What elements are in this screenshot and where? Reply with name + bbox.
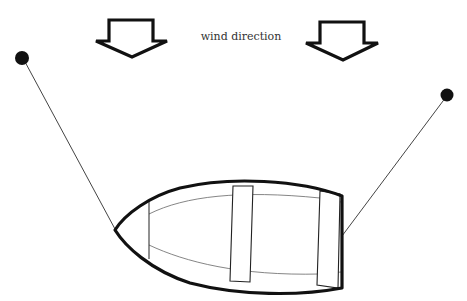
mooring-line-right — [342, 97, 446, 236]
wind-direction-label: wind direction — [201, 30, 282, 43]
boat-seat-stern — [317, 191, 340, 288]
anchor-left-icon — [15, 51, 29, 65]
anchor-right-icon — [441, 89, 454, 102]
boat — [115, 181, 342, 293]
wind-arrow-right-icon — [306, 22, 378, 60]
wind-arrow-left-icon — [96, 20, 167, 57]
mooring-line-left — [24, 60, 115, 229]
mooring-diagram: wind direction — [0, 0, 467, 301]
boat-seat-middle — [230, 186, 253, 282]
